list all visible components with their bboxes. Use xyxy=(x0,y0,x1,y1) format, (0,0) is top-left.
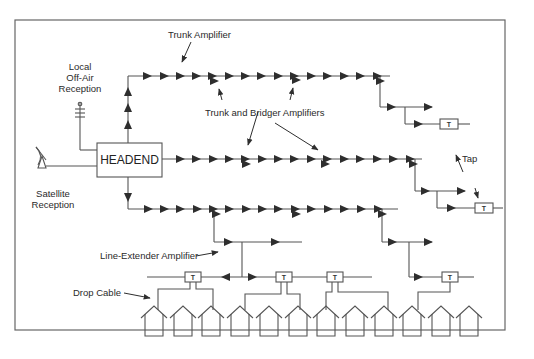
label-trunk-amplifier: Trunk Amplifier xyxy=(168,29,231,40)
label-local-reception-3: Reception xyxy=(52,83,108,94)
label-drop-cable: Drop Cable xyxy=(73,287,121,298)
label-trunk-bridger: Trunk and Bridger Amplifiers xyxy=(205,107,325,118)
tap-symbol: T xyxy=(448,274,453,281)
tap-symbol: T xyxy=(482,205,487,212)
label-tap: Tap xyxy=(462,153,477,164)
label-line-extender: Line-Extender Amplifier xyxy=(100,250,198,261)
cable-network-diagram: T T T T T T xyxy=(0,0,534,359)
headend-label: HEADEND xyxy=(97,143,162,177)
tap-symbol: T xyxy=(191,274,196,281)
label-local-reception-1: Local xyxy=(58,61,102,72)
tap-symbol: T xyxy=(282,274,287,281)
tap-symbol: T xyxy=(447,121,452,128)
label-satellite-1: Satellite xyxy=(30,188,76,199)
label-satellite-2: Reception xyxy=(30,199,76,210)
label-local-reception-2: Off-Air xyxy=(58,72,102,83)
tap-symbol: T xyxy=(333,274,338,281)
houses xyxy=(141,306,482,336)
